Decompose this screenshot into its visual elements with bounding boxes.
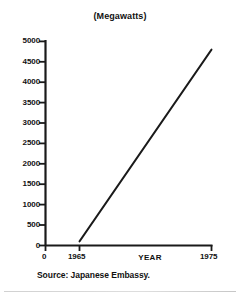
y-tick-label-3500: 3500 <box>6 99 40 107</box>
y-tick-label-2000: 2000 <box>6 160 40 168</box>
y-tick-label-2500: 2500 <box>6 139 40 147</box>
scan-artifact-rule <box>4 291 236 292</box>
x-axis-title: YEAR <box>120 253 180 262</box>
y-tick-label-4500: 4500 <box>6 58 40 66</box>
source-note: Source: Japanese Embassy. <box>37 270 150 280</box>
y-tick-label-0: 0 <box>6 242 40 250</box>
y-tick-label-3000: 3000 <box>6 119 40 127</box>
x-tick-label-1965: 1965 <box>68 253 85 261</box>
chart-figure: (Megawatts) 0 500 <box>0 0 240 299</box>
data-line-capacity <box>80 50 212 242</box>
y-tick-label-5000: 5000 <box>6 37 40 45</box>
x-tick-label-1975: 1975 <box>200 253 217 261</box>
y-tick-label-1000: 1000 <box>6 201 40 209</box>
y-axis-tick-labels: 0 500 1000 1500 2000 2500 3000 3500 4000… <box>0 0 40 299</box>
y-tick-label-500: 500 <box>6 221 40 229</box>
y-tick-label-1500: 1500 <box>6 180 40 188</box>
x-origin-label: 0 <box>42 253 46 261</box>
y-tick-label-4000: 4000 <box>6 78 40 86</box>
